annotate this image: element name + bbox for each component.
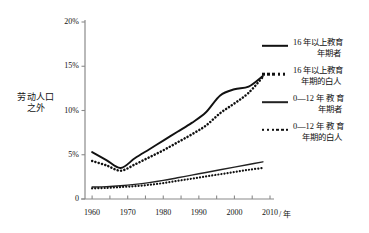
legend-swatch-solid-thin bbox=[262, 96, 288, 108]
legend-swatch-line bbox=[262, 101, 288, 103]
legend-label-line2: 年期者 bbox=[293, 49, 343, 60]
legend-item[interactable]: 16 年以上教育年期的白人 bbox=[262, 66, 366, 87]
legend-item[interactable]: 0—12 年 教 育年期的白人 bbox=[262, 122, 366, 143]
x-axis-tick-label: 1990 bbox=[184, 208, 214, 217]
legend-item[interactable]: 0—12 年 教 育年期者 bbox=[262, 94, 366, 115]
y-axis-tick-label: 0 bbox=[53, 194, 79, 203]
legend-label: 0—12 年 教 育年期者 bbox=[293, 94, 344, 115]
series-line-2 bbox=[92, 162, 263, 187]
legend-swatch-solid-thick bbox=[262, 40, 288, 52]
chart-legend: 16 年以上教育年期者16 年以上教育年期的白人0—12 年 教 育年期者0—1… bbox=[262, 38, 366, 150]
legend-label-line1: 0—12 年 教 育 bbox=[293, 122, 344, 131]
legend-swatch-dotted-thick bbox=[262, 68, 288, 80]
legend-swatch-line bbox=[262, 45, 288, 47]
legend-label-line2: 年期者 bbox=[293, 105, 344, 116]
x-axis-tick-label: 1980 bbox=[148, 208, 178, 217]
x-axis-tick-label: 1960 bbox=[77, 208, 107, 217]
x-axis-unit-label: / 年 bbox=[279, 208, 291, 219]
legend-swatch-dotted-thin bbox=[262, 124, 288, 136]
legend-label-line2: 年期的白人 bbox=[293, 133, 344, 144]
y-axis-tick-label: 15% bbox=[53, 61, 79, 70]
legend-label-line1: 0—12 年 教 育 bbox=[293, 94, 344, 103]
y-axis-label-line1: 劳动人口 bbox=[8, 92, 64, 103]
x-axis-tick-label: 1970 bbox=[113, 208, 143, 217]
legend-swatch-line bbox=[262, 73, 288, 76]
y-axis-tick-label: 10% bbox=[53, 106, 79, 115]
legend-label-line1: 16 年以上教育 bbox=[293, 66, 343, 75]
x-axis-tick-label: 2000 bbox=[219, 208, 249, 217]
legend-item[interactable]: 16 年以上教育年期者 bbox=[262, 38, 366, 59]
y-axis-tick-label: 20% bbox=[53, 17, 79, 26]
series-line-0 bbox=[92, 76, 263, 168]
series-line-1 bbox=[92, 77, 263, 171]
legend-swatch-line bbox=[262, 129, 288, 131]
legend-label-line1: 16 年以上教育 bbox=[293, 38, 343, 47]
legend-label-line2: 年期的白人 bbox=[293, 77, 343, 88]
legend-label: 0—12 年 教 育年期的白人 bbox=[293, 122, 344, 143]
legend-label: 16 年以上教育年期的白人 bbox=[293, 66, 343, 87]
legend-label: 16 年以上教育年期者 bbox=[293, 38, 343, 59]
y-axis-tick-label: 5% bbox=[53, 150, 79, 159]
